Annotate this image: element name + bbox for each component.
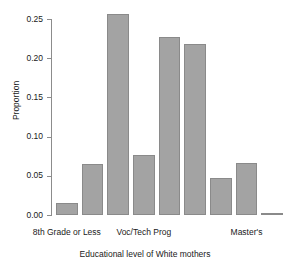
- bar: [210, 178, 232, 215]
- bar: [236, 163, 258, 215]
- y-tick-label: 0.15: [26, 93, 43, 102]
- y-tick-mark: [47, 58, 51, 59]
- bar-chart-figure: 0.000.050.100.150.200.25 Proportion 8th …: [0, 0, 290, 267]
- y-axis-line: [51, 19, 52, 216]
- y-tick-mark: [47, 137, 51, 138]
- bar: [56, 203, 78, 215]
- bars-layer: [54, 19, 285, 215]
- bar: [82, 164, 104, 215]
- y-axis-title: Proportion: [12, 71, 21, 131]
- y-tick-mark: [47, 176, 51, 177]
- y-tick-label: 0.10: [26, 132, 43, 141]
- bar: [107, 14, 129, 215]
- y-tick-label: 0.20: [26, 54, 43, 63]
- y-tick-label: 0.00: [26, 211, 43, 220]
- x-axis-title: Educational level of White mothers: [0, 249, 290, 259]
- bar: [184, 44, 206, 215]
- x-tick-label: Master's: [102, 227, 291, 237]
- y-tick-label: 0.05: [26, 171, 43, 180]
- y-tick-mark: [47, 215, 51, 216]
- bar: [159, 37, 181, 215]
- y-tick-mark: [47, 97, 51, 98]
- bar: [133, 155, 155, 215]
- y-tick-mark: [47, 19, 51, 20]
- y-tick-label: 0.25: [26, 15, 43, 24]
- bar: [261, 213, 283, 215]
